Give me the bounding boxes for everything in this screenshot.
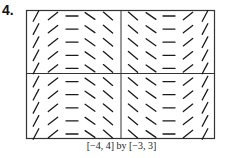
window-caption: [−4, 4] by [−3, 3] bbox=[0, 140, 225, 151]
slope-segment bbox=[146, 39, 156, 46]
slope-segment bbox=[128, 12, 137, 20]
slope-segment bbox=[128, 25, 137, 33]
slope-segment bbox=[202, 37, 208, 48]
slope-segment bbox=[202, 116, 208, 127]
slope-segment bbox=[183, 25, 192, 32]
slope-segment bbox=[202, 11, 208, 22]
slope-segment bbox=[85, 52, 95, 59]
slope-segment bbox=[33, 11, 39, 22]
slope-segment bbox=[146, 26, 156, 33]
slope-segment bbox=[48, 130, 57, 137]
slope-segment bbox=[103, 38, 112, 46]
slope-segment bbox=[202, 24, 208, 35]
slope-segment bbox=[128, 104, 137, 112]
slope-segment bbox=[33, 63, 39, 74]
slope-segment bbox=[33, 116, 39, 127]
slope-segment bbox=[146, 104, 156, 111]
slope-segment bbox=[48, 78, 57, 85]
slope-segment bbox=[146, 117, 156, 124]
slope-segment bbox=[128, 91, 137, 99]
slope-segment bbox=[202, 129, 208, 140]
slope-segment bbox=[48, 65, 57, 72]
slope-segment bbox=[183, 52, 192, 59]
slope-segment bbox=[202, 50, 208, 61]
slope-segment bbox=[85, 13, 95, 20]
slope-segment bbox=[48, 12, 57, 19]
slope-segment bbox=[146, 65, 156, 72]
slope-segment bbox=[33, 24, 39, 35]
slope-segment bbox=[128, 52, 137, 60]
slope-segment bbox=[103, 130, 112, 138]
slope-segment bbox=[33, 76, 39, 87]
slope-segment bbox=[103, 52, 112, 60]
slope-segment bbox=[33, 50, 39, 61]
slope-segment bbox=[85, 91, 95, 98]
slope-segment bbox=[146, 131, 156, 138]
slope-segment bbox=[128, 38, 137, 46]
slope-segment bbox=[48, 52, 57, 59]
slope-segment bbox=[33, 37, 39, 48]
slope-segment bbox=[48, 25, 57, 32]
slope-segment bbox=[146, 52, 156, 59]
slope-segment bbox=[183, 117, 192, 124]
slope-segment bbox=[48, 39, 57, 46]
slope-segment bbox=[183, 12, 192, 19]
slope-segment bbox=[183, 104, 192, 111]
slope-segment bbox=[146, 91, 156, 98]
slope-segment bbox=[48, 91, 57, 98]
slope-field-plot bbox=[0, 0, 225, 158]
slope-segment bbox=[103, 25, 112, 33]
slope-segment bbox=[103, 91, 112, 99]
slope-segment bbox=[128, 78, 137, 86]
slope-segment bbox=[33, 89, 39, 100]
slope-segment bbox=[85, 104, 95, 111]
slope-segment bbox=[33, 103, 39, 114]
slope-segment bbox=[48, 104, 57, 111]
slope-segment bbox=[33, 129, 39, 140]
slope-segment bbox=[183, 130, 192, 137]
slope-segment bbox=[85, 131, 95, 138]
slope-segment bbox=[202, 103, 208, 114]
slope-segment bbox=[202, 89, 208, 100]
slope-segment bbox=[183, 65, 192, 72]
slope-segment bbox=[103, 104, 112, 112]
slope-segment bbox=[146, 78, 156, 85]
slope-segment bbox=[128, 130, 137, 138]
slope-segment bbox=[183, 91, 192, 98]
slope-segment bbox=[85, 39, 95, 46]
slope-segment bbox=[128, 117, 137, 125]
slope-segment bbox=[48, 117, 57, 124]
slope-segment bbox=[146, 13, 156, 20]
slope-segment bbox=[128, 65, 137, 73]
slope-segment bbox=[202, 63, 208, 74]
slope-segment bbox=[183, 78, 192, 85]
slope-segment bbox=[85, 26, 95, 33]
slope-segment bbox=[85, 117, 95, 124]
slope-segment bbox=[103, 78, 112, 86]
slope-segment bbox=[202, 76, 208, 87]
slope-segment bbox=[103, 12, 112, 20]
slope-segment bbox=[85, 65, 95, 72]
slope-segment bbox=[85, 78, 95, 85]
slope-segment bbox=[103, 117, 112, 125]
slope-segment bbox=[183, 39, 192, 46]
slope-segment bbox=[103, 65, 112, 73]
